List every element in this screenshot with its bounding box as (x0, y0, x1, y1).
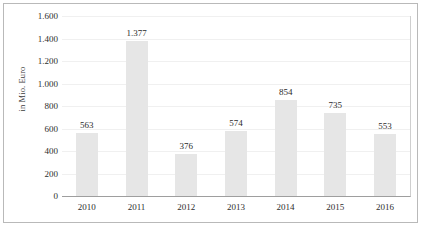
gridline (62, 196, 410, 197)
bar-group: 574 (211, 16, 261, 196)
bar[interactable]: 574 (225, 131, 247, 196)
bar-value-label: 735 (329, 100, 343, 111)
y-axis-tick-labels: 02004006008001.0001.2001.4001.600 (22, 16, 58, 196)
bar-value-label: 1.377 (126, 28, 146, 39)
x-axis-tick-label: 2015 (310, 200, 360, 216)
bar-group: 376 (161, 16, 211, 196)
bar-value-label: 553 (378, 121, 392, 132)
y-axis-tick-label: 1.000 (22, 79, 58, 89)
plot-area: 5631.377376574854735553 (62, 16, 411, 197)
y-axis-tick-label: 200 (22, 169, 58, 179)
y-axis-tick-label: 400 (22, 146, 58, 156)
x-axis-tick-label: 2014 (261, 200, 311, 216)
x-axis-tick-labels: 2010201120122013201420152016 (62, 200, 410, 216)
bar-group: 735 (311, 16, 361, 196)
bar[interactable]: 376 (175, 154, 197, 196)
bar-series: 5631.377376574854735553 (62, 16, 410, 196)
chart-figure: in Mio. Euro 02004006008001.0001.2001.40… (3, 3, 418, 223)
bar[interactable]: 553 (374, 134, 396, 196)
bar-group: 553 (360, 16, 410, 196)
y-axis-tick-label: 0 (22, 191, 58, 201)
bar-group: 1.377 (112, 16, 162, 196)
bar-value-label: 854 (279, 87, 293, 98)
bar[interactable]: 854 (275, 100, 297, 196)
bar[interactable]: 735 (324, 113, 346, 196)
bar[interactable]: 1.377 (126, 41, 148, 196)
x-axis-tick-label: 2013 (211, 200, 261, 216)
bar[interactable]: 563 (76, 133, 98, 196)
y-axis-tick-label: 1.400 (22, 34, 58, 44)
x-axis-tick-label: 2012 (161, 200, 211, 216)
bar-group: 563 (62, 16, 112, 196)
bar-group: 854 (261, 16, 311, 196)
bar-value-label: 574 (229, 118, 243, 129)
x-axis-tick-label: 2011 (112, 200, 162, 216)
y-axis-tick-label: 800 (22, 101, 58, 111)
bar-value-label: 376 (180, 141, 194, 152)
x-axis-tick-label: 2010 (62, 200, 112, 216)
y-axis-tick-label: 1.200 (22, 56, 58, 66)
y-axis-tick-label: 1.600 (22, 11, 58, 21)
x-axis-tick-label: 2016 (360, 200, 410, 216)
y-axis-tick-label: 600 (22, 124, 58, 134)
bar-value-label: 563 (80, 120, 94, 131)
